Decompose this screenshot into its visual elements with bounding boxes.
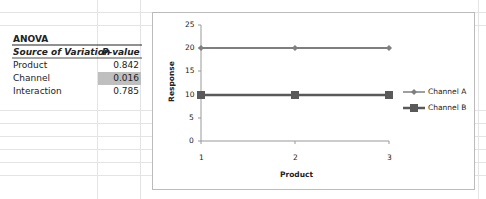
x-axis-title: Product	[280, 170, 313, 179]
legend-channel-b[interactable]: Channel B	[428, 103, 466, 112]
row-source: Channel	[13, 73, 50, 83]
row-pvalue: 0.016	[98, 73, 139, 83]
y-tick: 25	[185, 20, 195, 29]
row-source: Interaction	[13, 86, 62, 96]
row-source: Product	[13, 60, 47, 70]
row-pvalue: 0.785	[98, 86, 139, 96]
legend-channel-a[interactable]: Channel A	[428, 87, 466, 96]
anova-title: ANOVA	[13, 34, 48, 44]
header-source: Source of Variation	[13, 47, 110, 57]
y-tick: 0	[189, 136, 194, 145]
x-tick: 1	[199, 153, 204, 162]
y-tick: 10	[185, 90, 195, 99]
y-tick: 5	[189, 113, 194, 122]
x-tick: 3	[387, 153, 392, 162]
y-tick: 20	[185, 43, 195, 52]
plot-area	[153, 13, 474, 189]
y-axis-title: Response	[167, 60, 176, 104]
header-pvalue: P-value	[102, 47, 140, 57]
x-tick: 2	[293, 153, 298, 162]
interaction-chart[interactable]: 25 20 15 10 5 0 1 2 3 Product Response C…	[152, 12, 475, 190]
y-tick: 15	[185, 66, 195, 75]
row-pvalue: 0.842	[98, 60, 139, 70]
